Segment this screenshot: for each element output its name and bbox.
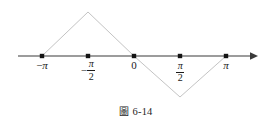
caption-number-value: 6-14 — [132, 106, 152, 117]
fraction-denominator: 2 — [88, 72, 95, 83]
origin-label: 0 — [131, 59, 137, 71]
fraction-minus-pi-over-2: − π 2 — [81, 59, 96, 82]
tick-label-pi: π — [206, 60, 246, 71]
plot-area: −π − π 2 0 π 2 — [0, 0, 272, 105]
tick-symbol-minus-pi: π — [42, 59, 48, 71]
tick-label-minus-pi: −π — [22, 60, 62, 71]
tick-symbol-pi: π — [223, 59, 229, 71]
tick-dot-pi-over-2 — [178, 54, 182, 58]
tick-label-pi-over-2: π 2 — [160, 59, 200, 84]
fraction-denominator: 2 — [177, 73, 184, 84]
tick-label-zero: 0 — [114, 60, 154, 71]
fraction-pi-over-2: π 2 — [176, 61, 185, 84]
fraction-numerator: π — [88, 59, 95, 70]
fraction-sign: − — [81, 65, 87, 76]
arrow-right-icon — [250, 52, 258, 60]
triangle-wave-plot — [0, 0, 272, 105]
caption-cjk-label: 圖 — [119, 106, 129, 117]
tick-dot-zero — [132, 54, 136, 58]
fraction-body: π 2 — [87, 59, 95, 82]
tick-dot-pi — [224, 54, 228, 58]
figure-container: −π − π 2 0 π 2 — [0, 0, 272, 129]
tick-label-minus-pi-over-2: − π 2 — [68, 59, 108, 82]
figure-caption: 圖 6-14 — [0, 103, 272, 118]
tick-dot-minus-pi — [40, 54, 44, 58]
fraction-numerator: π — [177, 61, 184, 72]
fraction-body: π 2 — [176, 61, 184, 84]
